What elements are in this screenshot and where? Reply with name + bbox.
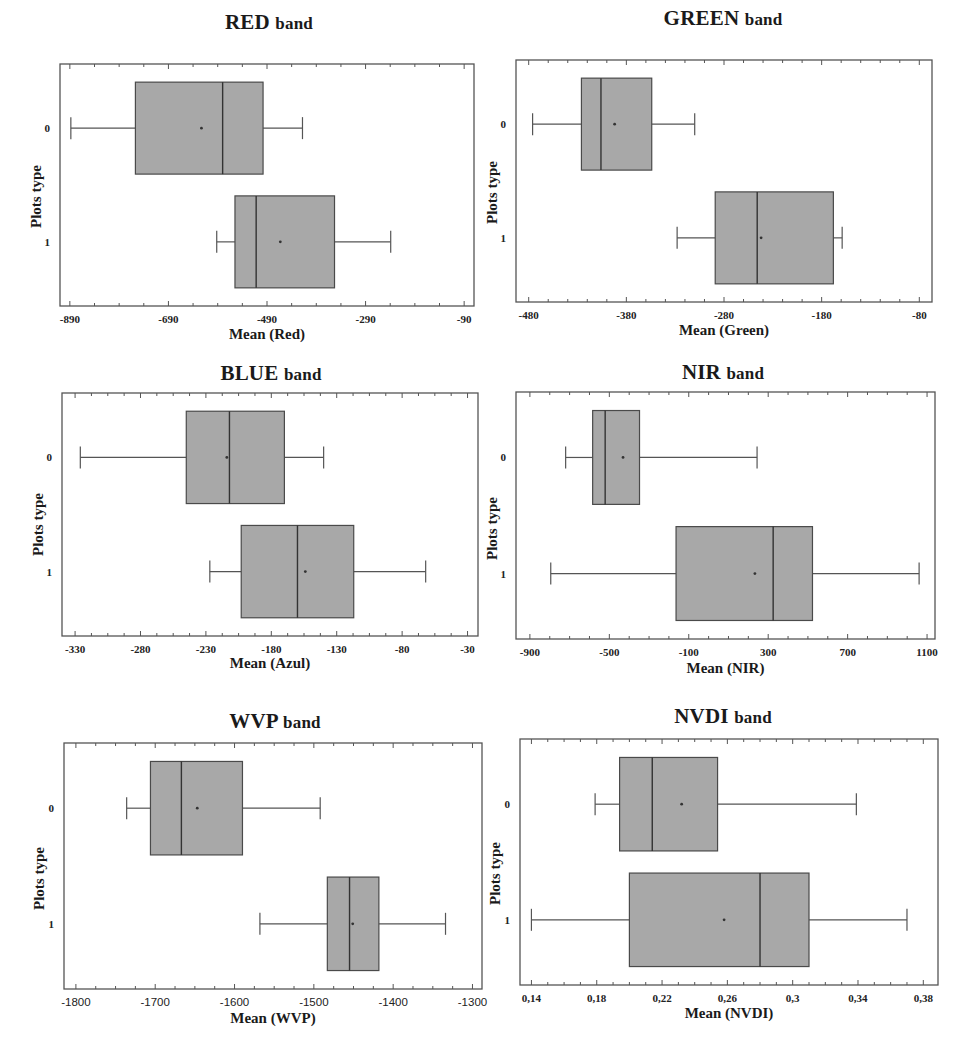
iqr-box xyxy=(620,757,718,850)
x-tick-label: 0,34 xyxy=(848,992,868,1004)
box-category-0: 0 xyxy=(505,757,857,850)
iqr-box xyxy=(629,873,809,966)
nvdi-band-chart: NVDI band 0,140,180,220,260,30,340,3801 … xyxy=(0,0,482,350)
y-tick-label: 0 xyxy=(505,798,511,810)
y-axis-label: Plots type xyxy=(487,842,504,905)
y-tick-label: 1 xyxy=(505,914,511,926)
x-tick-label: 0,3 xyxy=(786,992,800,1004)
box-category-1: 1 xyxy=(505,873,907,966)
mean-marker xyxy=(680,803,683,806)
x-tick-label: 0,14 xyxy=(522,992,542,1004)
boxplot-area: 0,140,180,220,260,30,340,3801 xyxy=(0,0,964,1054)
x-tick-label: 0,22 xyxy=(652,992,672,1004)
mean-marker xyxy=(723,918,726,921)
x-tick-label: 0,18 xyxy=(587,992,607,1004)
x-tick-label: 0,38 xyxy=(914,992,934,1004)
x-axis-label: Mean (NVDI) xyxy=(520,1005,938,1022)
x-tick-label: 0,26 xyxy=(718,992,738,1004)
